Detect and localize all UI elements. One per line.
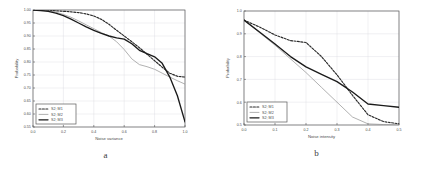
svg-text:S2; M1: S2; M1: [51, 107, 63, 111]
svg-text:S2; M1: S2; M1: [262, 105, 274, 109]
svg-text:S2; M3: S2; M3: [262, 116, 274, 120]
svg-text:1.00: 1.00: [24, 8, 31, 12]
svg-text:0.9: 0.9: [237, 32, 242, 36]
svg-text:Noise variance: Noise variance: [95, 136, 123, 141]
figure-container: 0.00.20.40.60.81.00.550.600.650.700.750.…: [0, 0, 422, 174]
svg-text:0.65: 0.65: [24, 99, 31, 103]
svg-text:0.8: 0.8: [152, 130, 157, 134]
chart-panel-b: 0.00.10.20.30.40.50.50.60.70.80.91.0Nois…: [211, 0, 422, 174]
svg-text:0.4: 0.4: [91, 130, 96, 134]
svg-text:0.4: 0.4: [366, 128, 371, 132]
svg-text:0.80: 0.80: [24, 60, 31, 64]
svg-text:0.6: 0.6: [237, 101, 242, 105]
svg-text:0.95: 0.95: [24, 21, 31, 25]
svg-text:Probability: Probability: [225, 57, 230, 77]
svg-text:1.0: 1.0: [183, 130, 188, 134]
svg-text:0.1: 0.1: [273, 128, 278, 132]
svg-text:0.85: 0.85: [24, 47, 31, 51]
svg-text:0.2: 0.2: [61, 130, 66, 134]
svg-text:0.70: 0.70: [24, 86, 31, 90]
svg-text:0.5: 0.5: [397, 128, 402, 132]
svg-text:0.75: 0.75: [24, 73, 31, 77]
subfigure-label-b: b: [211, 148, 422, 158]
svg-text:0.6: 0.6: [122, 130, 127, 134]
svg-text:0.2: 0.2: [304, 128, 309, 132]
svg-text:0.0: 0.0: [242, 128, 247, 132]
svg-text:0.0: 0.0: [31, 130, 36, 134]
chart-panel-a: 0.00.20.40.60.81.00.550.600.650.700.750.…: [0, 0, 211, 174]
svg-text:0.3: 0.3: [335, 128, 340, 132]
line-chart-a: 0.00.20.40.60.81.00.550.600.650.700.750.…: [0, 0, 211, 174]
svg-text:0.8: 0.8: [237, 55, 242, 59]
svg-text:Probability: Probability: [14, 58, 19, 78]
svg-text:1.0: 1.0: [237, 9, 242, 13]
svg-text:0.7: 0.7: [237, 78, 242, 82]
svg-text:0.60: 0.60: [24, 112, 31, 116]
svg-text:S2; M3: S2; M3: [51, 118, 63, 122]
svg-text:0.5: 0.5: [237, 123, 242, 127]
subfigure-label-a: a: [0, 150, 211, 160]
svg-text:0.55: 0.55: [24, 125, 31, 129]
svg-text:S2; M2: S2; M2: [51, 113, 63, 117]
svg-text:S2; M2: S2; M2: [262, 111, 274, 115]
svg-text:Noise intensity: Noise intensity: [308, 134, 336, 139]
svg-text:0.90: 0.90: [24, 34, 31, 38]
